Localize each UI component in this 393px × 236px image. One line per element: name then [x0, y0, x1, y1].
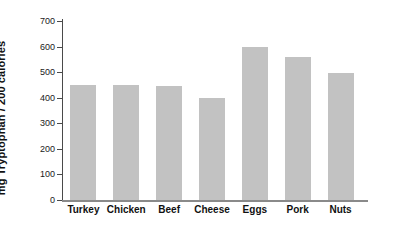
bar — [156, 86, 182, 200]
y-axis-title: mg Tryptophan / 200 calories — [0, 0, 30, 236]
bar — [285, 57, 311, 200]
y-tick-mark — [57, 47, 62, 48]
bar — [70, 85, 96, 200]
y-tick-label: 200 — [40, 144, 55, 154]
x-axis-label: Nuts — [329, 204, 351, 215]
y-tick-label: 600 — [40, 42, 55, 52]
x-axis-label: Eggs — [243, 204, 267, 215]
x-axis-label: Pork — [287, 204, 309, 215]
y-tick-mark — [57, 174, 62, 175]
y-tick-label: 700 — [40, 16, 55, 26]
y-tick-label: 100 — [40, 169, 55, 179]
y-tick-label: 400 — [40, 93, 55, 103]
x-axis-label: Cheese — [194, 204, 230, 215]
x-axis-label: Chicken — [107, 204, 146, 215]
bar-chart: mg Tryptophan / 200 calories 01002003004… — [0, 0, 393, 236]
y-tick-label: 0 — [50, 195, 55, 205]
bar — [242, 47, 268, 200]
y-tick-mark — [57, 98, 62, 99]
bar — [113, 85, 139, 200]
bar — [328, 73, 354, 200]
x-axis-labels: TurkeyChickenBeefCheeseEggsPorkNuts — [62, 204, 362, 222]
y-tick-mark — [57, 72, 62, 73]
x-axis-line — [62, 200, 368, 202]
y-tick-mark — [57, 149, 62, 150]
x-axis-label: Turkey — [67, 204, 99, 215]
y-tick-mark — [57, 21, 62, 22]
y-tick-label: 300 — [40, 118, 55, 128]
plot-area: 0100200300400500600700 — [62, 21, 362, 200]
bar — [199, 98, 225, 200]
y-tick-mark — [57, 200, 62, 201]
y-tick-mark — [57, 123, 62, 124]
x-axis-label: Beef — [158, 204, 180, 215]
y-tick-label: 500 — [40, 67, 55, 77]
